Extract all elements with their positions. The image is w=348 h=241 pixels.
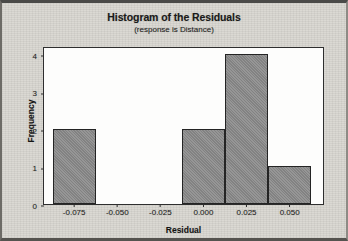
y-axis-tick-label: 4 [33, 51, 37, 60]
y-axis-tick-label: 3 [33, 89, 37, 98]
x-axis-label: Residual [43, 225, 324, 235]
x-axis-tick-mark [246, 204, 247, 207]
x-axis-tick-mark [117, 204, 118, 207]
y-axis-tick: 1 [33, 164, 44, 173]
x-axis-tick-label: 0.000 [193, 208, 213, 217]
y-axis-tick-label: 0 [33, 202, 37, 211]
plot-area: 01234 -0.075-0.050-0.0250.0000.0250.050 [43, 47, 324, 205]
y-axis-tick-label: 1 [33, 164, 37, 173]
x-axis-tick-mark [160, 204, 161, 207]
histogram-bar [53, 129, 96, 204]
x-axis-tick-mark [203, 204, 204, 207]
x-axis-tick: 0.050 [280, 204, 300, 217]
x-axis-tick-label: -0.075 [63, 208, 86, 217]
x-axis-tick: 0.025 [237, 204, 257, 217]
y-axis-tick-mark [41, 206, 44, 207]
y-axis-tick: 3 [33, 89, 44, 98]
histogram-bar [182, 129, 225, 204]
x-axis-tick: -0.075 [63, 204, 86, 217]
y-axis-tick: 0 [33, 202, 44, 211]
x-axis-tick-mark [289, 204, 290, 207]
y-axis-label: Frequency [26, 99, 36, 142]
x-axis-tick: -0.050 [106, 204, 129, 217]
y-axis-tick-mark [41, 55, 44, 56]
x-axis-tick-label: 0.025 [237, 208, 257, 217]
y-axis-tick-mark [41, 168, 44, 169]
x-axis-tick: -0.025 [149, 204, 172, 217]
histogram-bar [225, 54, 268, 204]
figure-subtitle: (response is Distance) [2, 25, 346, 34]
bar-series [44, 48, 323, 204]
y-axis-tick: 4 [33, 51, 44, 60]
x-axis-tick-label: 0.050 [280, 208, 300, 217]
x-axis-tick-label: -0.050 [106, 208, 129, 217]
y-axis-tick-mark [41, 93, 44, 94]
x-axis-tick: 0.000 [193, 204, 213, 217]
x-axis-tick-label: -0.025 [149, 208, 172, 217]
y-axis-tick-mark [41, 131, 44, 132]
histogram-figure: Histogram of the Residuals (response is … [0, 0, 348, 241]
page-title: Histogram of the Residuals [2, 11, 346, 23]
x-axis-tick-mark [74, 204, 75, 207]
figure-title-block: Histogram of the Residuals (response is … [2, 11, 346, 34]
histogram-bar [268, 166, 311, 204]
